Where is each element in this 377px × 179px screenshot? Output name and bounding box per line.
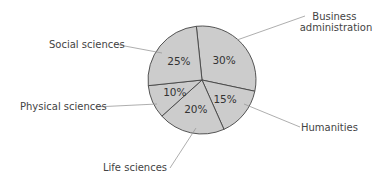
- percent-label: 20%: [184, 103, 207, 115]
- pie-chart: 30%15%20%10%25% Business administration …: [0, 0, 377, 179]
- percent-label: 10%: [163, 86, 186, 98]
- label-physical-sciences: Physical sciences: [20, 101, 107, 112]
- label-humanities: Humanities: [301, 122, 358, 133]
- leader-line-humanities: [244, 104, 300, 127]
- label-business: Business administration: [300, 11, 373, 33]
- percent-label: 25%: [167, 55, 190, 67]
- percent-label: 15%: [213, 93, 236, 105]
- percent-label: 30%: [212, 54, 235, 66]
- leader-line-life: [170, 128, 196, 168]
- label-social-sciences: Social sciences: [49, 39, 125, 50]
- pie-slices: [148, 26, 256, 134]
- leader-line-business: [237, 16, 305, 40]
- label-life-sciences: Life sciences: [103, 162, 167, 173]
